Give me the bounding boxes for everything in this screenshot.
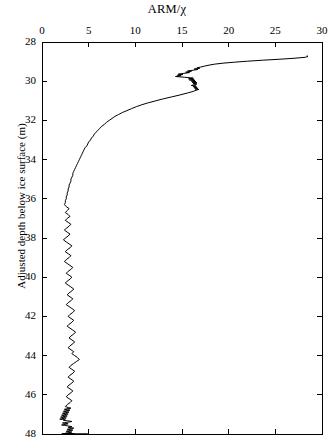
data-series-line bbox=[60, 56, 308, 434]
axes-frame bbox=[42, 42, 322, 434]
plot-area bbox=[0, 0, 334, 448]
chart-figure: ARM/χ Adjusted depth below ice surface (… bbox=[0, 0, 334, 448]
axis-tickmarks bbox=[42, 42, 322, 434]
